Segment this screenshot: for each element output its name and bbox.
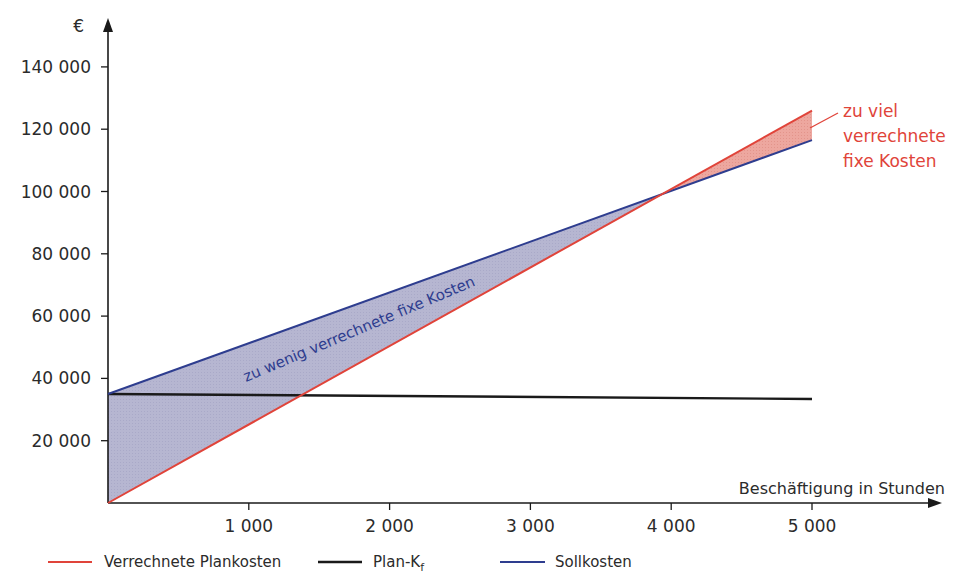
x-axis-title: Beschäftigung in Stunden [739, 479, 945, 498]
legend-label: Plan-Kf [373, 553, 425, 574]
y-tick-label: 80 000 [32, 244, 91, 264]
under-absorbed-label: zu wenig verrechnete fixe Kosten [241, 272, 478, 385]
legend-label: Verrechnete Plankosten [104, 553, 281, 571]
legend-item-plan-kf: Plan-Kf [318, 553, 425, 574]
legend-item-verrechnete-plankosten: Verrechnete Plankosten [48, 553, 281, 571]
chart-canvas: € 20 00040 00060 00080 000100 000120 000… [0, 0, 967, 588]
y-axis-arrow-icon [103, 18, 113, 32]
x-axis: Beschäftigung in Stunden 1 0002 0003 000… [108, 479, 945, 536]
y-tick-label: 140 000 [21, 57, 91, 77]
legend-item-sollkosten: Sollkosten [500, 553, 632, 571]
x-tick-label: 3 000 [506, 516, 555, 536]
y-tick-label: 20 000 [32, 431, 91, 451]
y-tick-label: 100 000 [21, 182, 91, 202]
over-absorbed-leader-line [810, 113, 838, 128]
over-absorbed-label-line3: fixe Kosten [843, 151, 937, 171]
x-tick-label: 1 000 [224, 516, 273, 536]
x-axis-arrow-icon [928, 498, 942, 508]
over-absorbed-label-line2: verrechnete [843, 126, 946, 146]
legend-label: Sollkosten [555, 553, 632, 571]
sollkosten-line [108, 140, 812, 394]
y-tick-label: 40 000 [32, 368, 91, 388]
verrechnete-plankosten-line [108, 111, 812, 503]
series-lines [108, 111, 812, 503]
y-axis-unit: € [73, 16, 84, 36]
y-tick-label: 120 000 [21, 119, 91, 139]
y-tick-label: 60 000 [32, 306, 91, 326]
legend: Verrechnete Plankosten Plan-Kf Sollkoste… [48, 553, 632, 574]
x-tick-label: 2 000 [365, 516, 414, 536]
x-tick-label: 5 000 [788, 516, 837, 536]
x-tick-label: 4 000 [647, 516, 696, 536]
y-axis: € 20 00040 00060 00080 000100 000120 000… [21, 16, 113, 503]
over-absorbed-label-line1: zu viel [843, 101, 898, 121]
